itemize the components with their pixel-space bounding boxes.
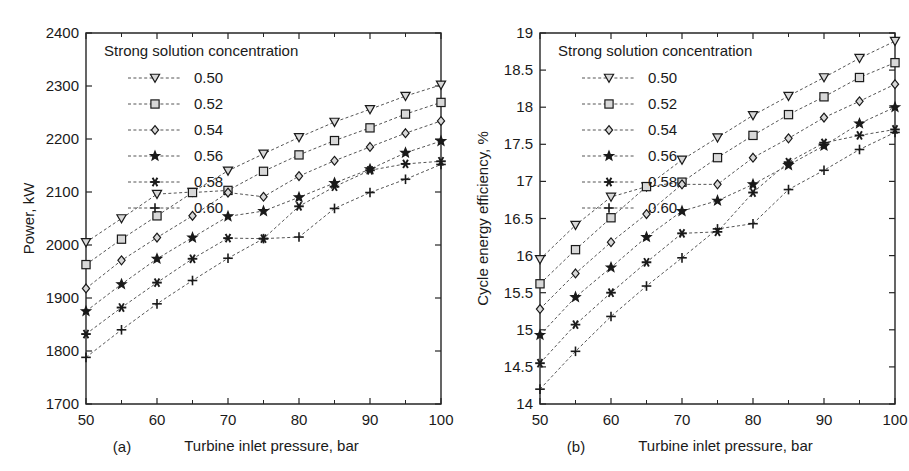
y-tick-label: 2000: [46, 236, 79, 253]
y-tick-label: 2100: [46, 183, 79, 200]
legend-entry-0.56[interactable]: 0.56: [128, 147, 223, 164]
legend-entry-0.58[interactable]: 0.58: [128, 173, 223, 190]
legend-entry-0.50[interactable]: 0.50: [582, 69, 677, 86]
star-icon: [436, 136, 445, 145]
y-tick-label: 2300: [46, 77, 79, 94]
triangle-down-icon: [117, 215, 126, 223]
legend-title: Strong solution concentration: [558, 42, 752, 59]
series-markers-0.52: [536, 59, 899, 288]
x-tick-label: 90: [816, 411, 833, 428]
y-axis-title: Power, kW: [20, 182, 37, 255]
legend-entry-0.52[interactable]: 0.52: [582, 95, 677, 112]
diamond-icon: [749, 153, 756, 162]
x-tick-label: 100: [428, 411, 453, 428]
square-icon: [607, 214, 615, 222]
star-icon: [152, 254, 161, 263]
y-tick-label: 16.5: [504, 210, 533, 227]
y-tick-label: 17: [516, 172, 533, 189]
star-icon: [150, 151, 159, 160]
star-icon: [571, 292, 580, 301]
legend-entry-0.60[interactable]: 0.60: [128, 199, 223, 216]
triangle-down-icon: [259, 150, 268, 158]
y-tick-label: 1800: [46, 342, 79, 359]
triangle-down-icon: [401, 92, 410, 100]
triangle-down-icon: [606, 193, 615, 201]
diamond-icon: [605, 126, 612, 135]
triangle-down-icon: [784, 92, 793, 100]
legend-entry-0.50[interactable]: 0.50: [128, 69, 223, 86]
y-tick-label: 18.5: [504, 61, 533, 78]
series-markers-0.50: [81, 81, 445, 247]
panel-a: 1700180019002000210022002300240050607080…: [0, 0, 454, 471]
y-tick-label: 16: [516, 247, 533, 264]
legend-entry-label: 0.58: [194, 173, 223, 190]
y-tick-label: 15.5: [504, 284, 533, 301]
y-tick-label: 14: [516, 395, 533, 412]
asterisk-icon: [401, 160, 411, 168]
plus-icon: [117, 325, 127, 335]
square-icon: [330, 136, 338, 144]
asterisk-icon: [150, 178, 160, 186]
x-tick-label: 50: [532, 411, 549, 428]
star-icon: [855, 119, 864, 128]
legend-entry-label: 0.50: [648, 69, 677, 86]
triangle-down-icon: [330, 118, 339, 126]
diamond-icon: [151, 126, 158, 135]
asterisk-icon: [677, 229, 687, 237]
x-tick-label: 100: [882, 411, 907, 428]
legend-entry-0.56[interactable]: 0.56: [582, 147, 677, 164]
star-icon: [188, 233, 197, 242]
square-icon: [536, 280, 544, 288]
legend-entry-label: 0.60: [194, 199, 223, 216]
legend-entry-0.52[interactable]: 0.52: [128, 95, 223, 112]
x-tick-label: 70: [220, 411, 237, 428]
plus-icon: [188, 276, 198, 286]
x-axis-title: Turbine inlet pressure, bar: [638, 437, 813, 454]
legend-entry-label: 0.54: [648, 121, 677, 138]
diamond-icon: [82, 284, 89, 293]
diamond-icon: [402, 129, 409, 138]
plus-icon: [535, 384, 545, 394]
triangle-down-icon: [713, 134, 722, 142]
legend-entry-label: 0.56: [194, 147, 223, 164]
legend-entry-label: 0.56: [648, 147, 677, 164]
plus-icon: [223, 253, 233, 263]
triangle-down-icon: [748, 112, 757, 120]
legend-title: Strong solution concentration: [104, 42, 298, 59]
y-tick-label: 17.5: [504, 135, 533, 152]
square-icon: [713, 154, 721, 162]
y-tick-label: 1900: [46, 289, 79, 306]
plus-icon: [81, 353, 91, 363]
star-icon: [890, 102, 899, 111]
plus-icon: [606, 312, 616, 322]
diamond-icon: [607, 238, 614, 247]
y-axis-title: Cycle energy efficiency, %: [474, 131, 491, 306]
diamond-icon: [295, 172, 302, 181]
diamond-icon: [891, 80, 898, 89]
triangle-down-icon: [677, 156, 686, 164]
triangle-down-icon: [223, 167, 232, 175]
square-icon: [820, 93, 828, 101]
square-icon: [117, 235, 125, 243]
plus-icon: [748, 219, 758, 229]
legend-entry-0.54[interactable]: 0.54: [582, 121, 677, 138]
diamond-icon: [536, 305, 543, 314]
plus-icon: [330, 204, 340, 214]
legend-entry-label: 0.52: [648, 95, 677, 112]
legend-entry-0.54[interactable]: 0.54: [128, 121, 223, 138]
diamond-icon: [437, 117, 444, 126]
series-line-0.60: [540, 132, 895, 389]
star-icon: [223, 211, 232, 220]
panel-caption: (a): [113, 438, 131, 455]
plot-frame: [540, 33, 895, 404]
diamond-icon: [260, 192, 267, 201]
legend-entry-0.58[interactable]: 0.58: [582, 173, 677, 190]
panel-caption: (b): [567, 438, 585, 455]
y-tick-label: 14.5: [504, 358, 533, 375]
x-tick-label: 70: [674, 411, 691, 428]
panel-b: 1414.51515.51616.51717.51818.51950607080…: [454, 0, 908, 471]
square-icon: [437, 98, 445, 106]
square-icon: [295, 151, 303, 159]
y-tick-label: 18: [516, 98, 533, 115]
chart-b-efficiency-vs-pressure: 1414.51515.51616.51717.51818.51950607080…: [454, 0, 908, 471]
